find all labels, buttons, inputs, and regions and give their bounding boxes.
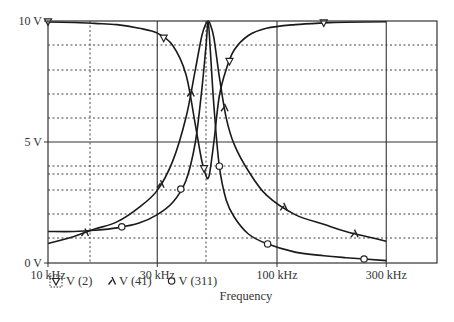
- circle-marker-icon: [119, 224, 125, 230]
- y-axis-ticks: 0 V5 V10 V: [19, 14, 48, 270]
- legend: V (2)V (41)V (311): [50, 274, 217, 288]
- legend-label: V (2): [66, 274, 93, 288]
- frequency-response-chart: 0 V5 V10 V 10 kHz30 kHz100 kHz300 kHz V …: [0, 0, 454, 322]
- x-tick-label: 10 kHz: [31, 268, 66, 282]
- x-tick-label: 300 kHz: [366, 268, 407, 282]
- circle-marker-icon: [361, 256, 367, 262]
- triangle-down-marker-icon: [226, 58, 233, 64]
- x-axis-label: Frequency: [220, 289, 274, 303]
- grid-lines: [48, 21, 437, 263]
- legend-label: V (311): [179, 274, 218, 288]
- series-curve-1: [48, 21, 386, 244]
- series-curves: [48, 21, 386, 261]
- x-tick-label: 100 kHz: [257, 268, 298, 282]
- legend-label: V (41): [119, 274, 152, 288]
- circle-marker-icon: [178, 186, 184, 192]
- circle-marker-icon: [264, 241, 270, 247]
- circle-marker-icon: [168, 278, 174, 284]
- circle-marker-icon: [216, 163, 222, 169]
- lambda-marker-icon: [81, 229, 88, 237]
- lambda-marker-icon: [109, 277, 116, 285]
- y-tick-label: 10 V: [19, 14, 43, 28]
- y-tick-label: 5 V: [25, 135, 43, 149]
